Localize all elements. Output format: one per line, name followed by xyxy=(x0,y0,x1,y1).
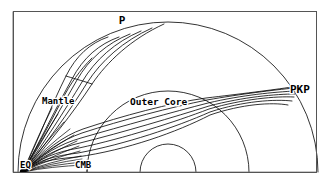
p-phase-label: P xyxy=(119,14,126,27)
pkp-phase-label: PKP xyxy=(290,83,310,96)
lower-hemisphere-mask xyxy=(0,173,327,182)
ray-path-figure: P PKP Mantle Outer Core EQ CMB xyxy=(0,0,327,182)
mantle-region-label: Mantle xyxy=(42,96,75,106)
earthquake-label: EQ xyxy=(20,160,31,170)
outer-core-region-label: Outer Core xyxy=(130,96,187,107)
cmb-label: CMB xyxy=(75,160,92,170)
seismic-ray-diagram: P PKP Mantle Outer Core EQ CMB xyxy=(0,0,327,182)
